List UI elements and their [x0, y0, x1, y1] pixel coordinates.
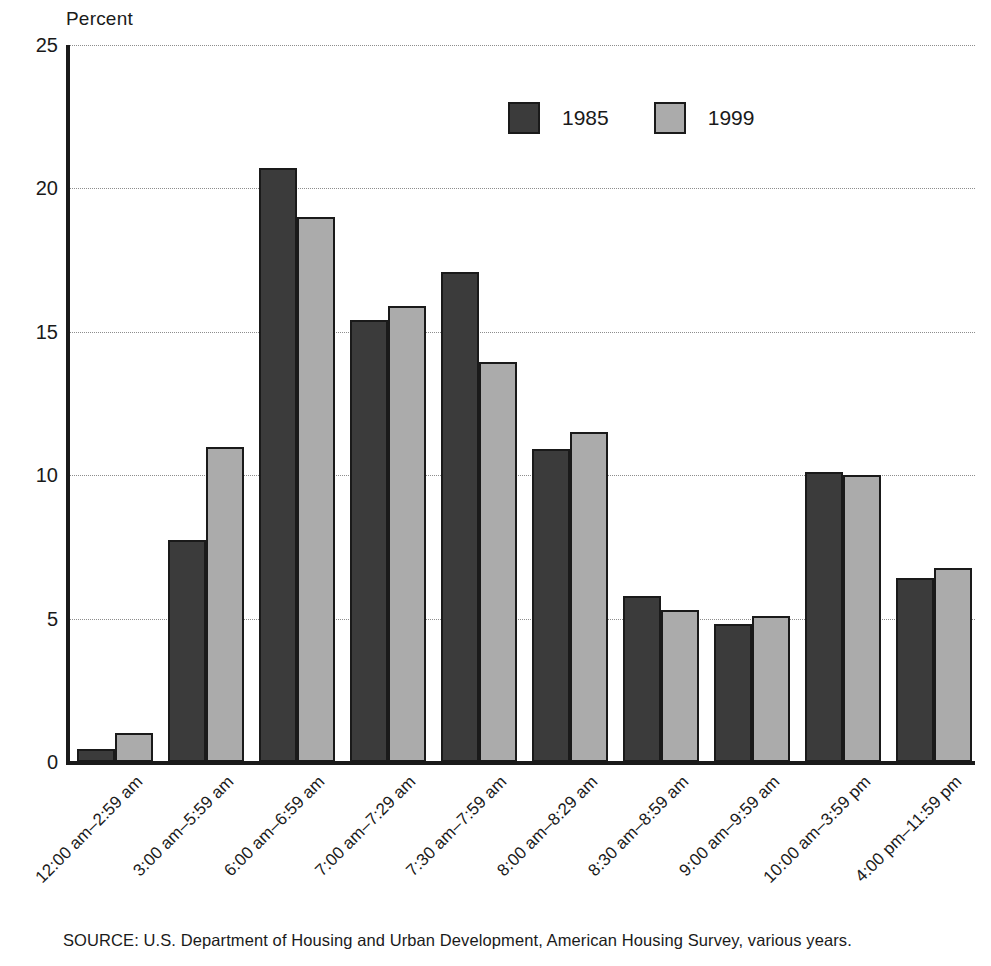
chart-figure: Percent 0510152025 19851999 12:00 am–2:5… — [0, 0, 991, 966]
x-axis-tick-labels: 12:00 am–2:59 am3:00 am–5:59 am6:00 am–6… — [0, 0, 991, 966]
x-tick-label: 12:00 am–2:59 am — [32, 772, 148, 888]
source-note: SOURCE: U.S. Department of Housing and U… — [63, 931, 852, 950]
